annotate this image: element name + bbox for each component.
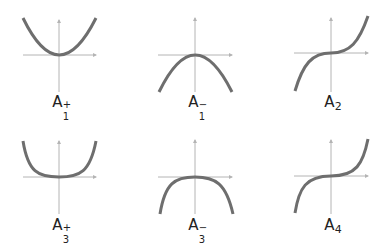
label-a3-minus: A−3 (188, 218, 205, 233)
panel-a2 (294, 16, 368, 92)
label-a3-plus: A+3 (52, 218, 69, 233)
singularity-diagrams (0, 0, 389, 247)
panel-a1-minus (158, 18, 232, 92)
label-a2: A2 (324, 95, 341, 110)
panel-a3-minus (158, 140, 233, 214)
panel-a4 (294, 139, 368, 214)
label-a1-plus: A+1 (52, 95, 69, 110)
curve-quartic-down (160, 177, 233, 214)
label-a1-minus: A−1 (188, 95, 205, 110)
panel-a3-plus (23, 141, 96, 214)
label-a4: A4 (324, 218, 341, 233)
panel-a1-plus (23, 18, 96, 92)
